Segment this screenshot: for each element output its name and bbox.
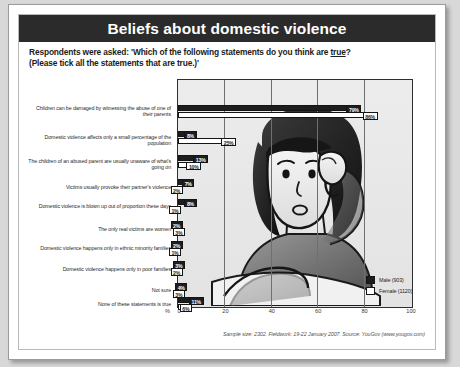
category-label: Children can be damaged by witnessing th…: [25, 105, 171, 118]
question-emphasis-true: true: [330, 47, 345, 57]
bar-chart: Male (903) Female (1120) Children can be…: [25, 77, 429, 325]
bar-group: 8%1%: [178, 199, 411, 213]
chart-card: Beliefs about domestic violence Responde…: [18, 14, 436, 350]
bar-male: 11%: [178, 297, 204, 303]
bar-male: 2%: [178, 221, 183, 227]
question-line-2: (Please tick all the statements that are…: [29, 58, 425, 69]
bar-female: 25%: [178, 138, 236, 144]
bar-male: 79%: [178, 105, 361, 111]
bar-female: 3%: [178, 228, 185, 234]
bar-value-label: 1%: [169, 248, 181, 256]
bar-female: 1%: [178, 206, 181, 212]
bar-male: 2%: [178, 241, 183, 247]
bar-male: 3%: [178, 261, 185, 267]
axis-tick-label: 20: [222, 308, 228, 314]
bar-value-label: 2%: [171, 268, 183, 276]
bar-male: 4%: [178, 283, 187, 289]
bar-female: 2%: [178, 186, 183, 192]
bar-male: 13%: [178, 155, 208, 161]
category-label: Domestic violence affects only a small p…: [25, 134, 171, 147]
bar-value-label: 1%: [169, 206, 181, 214]
bar-female: 86%: [178, 112, 378, 118]
bar-value-label: 8%: [184, 199, 196, 207]
question-line-1-post: ?: [346, 47, 351, 57]
bar-group: 4%3%: [178, 283, 411, 297]
chart-rows: Children can be damaged by witnessing th…: [25, 79, 429, 306]
bar-group: 2%1%: [178, 241, 411, 255]
bar-male: 8%: [178, 199, 197, 205]
category-label: Domestic violence happens only in ethnic…: [25, 245, 171, 251]
x-axis: 020406080100: [177, 308, 413, 320]
axis-unit-label: %: [165, 308, 170, 314]
bar-value-label: 10%: [186, 162, 201, 170]
bar-value-label: 86%: [363, 112, 378, 120]
category-label: The only real victims are women: [25, 226, 171, 232]
bar-female: 2%: [178, 268, 183, 274]
bar-group: 13%10%: [178, 155, 411, 169]
category-label: Domestic violence is blown up out of pro…: [25, 203, 171, 209]
category-label: Domestic violence happens only in poor f…: [25, 266, 171, 272]
bar-group: 3%2%: [178, 261, 411, 275]
bar-value-label: 3%: [173, 228, 185, 236]
axis-tick-label: 40: [269, 308, 275, 314]
bar-male: 7%: [178, 179, 194, 185]
bar-value-label: 25%: [221, 138, 236, 146]
bar-group: 7%2%: [178, 179, 411, 193]
axis-tick-label: 80: [361, 308, 367, 314]
page-title: Beliefs about domestic violence: [19, 15, 435, 42]
bar-group: 8%25%: [178, 131, 411, 145]
question-line-1: Respondents were asked: 'Which of the fo…: [29, 47, 425, 58]
question-text: Respondents were asked: 'Which of the fo…: [29, 47, 425, 70]
axis-tick-label: 0: [177, 308, 180, 314]
category-label: The children of an abused parent are usu…: [25, 158, 171, 171]
bar-female: 10%: [178, 162, 201, 168]
axis-tick-label: 60: [315, 308, 321, 314]
bar-group: 79%86%: [178, 105, 411, 119]
bar-value-label: 2%: [171, 186, 183, 194]
category-label: Victims usually provoke their partner's …: [25, 184, 171, 190]
bar-group: 2%3%: [178, 221, 411, 235]
source-footnote: Sample size: 2302. Fieldwork: 19-22 Janu…: [19, 331, 425, 337]
category-label: Not sure: [25, 287, 171, 293]
bar-value-label: 7%: [182, 179, 194, 187]
poster-outer-frame: Beliefs about domestic violence Responde…: [8, 4, 446, 360]
bar-female: 3%: [178, 290, 185, 296]
category-label: None of these statements is true: [25, 301, 171, 307]
title-bar: Beliefs about domestic violence: [19, 15, 435, 42]
axis-tick-label: 100: [406, 308, 415, 314]
bar-female: 1%: [178, 248, 181, 254]
bar-male: 8%: [178, 131, 197, 137]
question-line-1-pre: Respondents were asked: 'Which of the fo…: [29, 47, 330, 57]
